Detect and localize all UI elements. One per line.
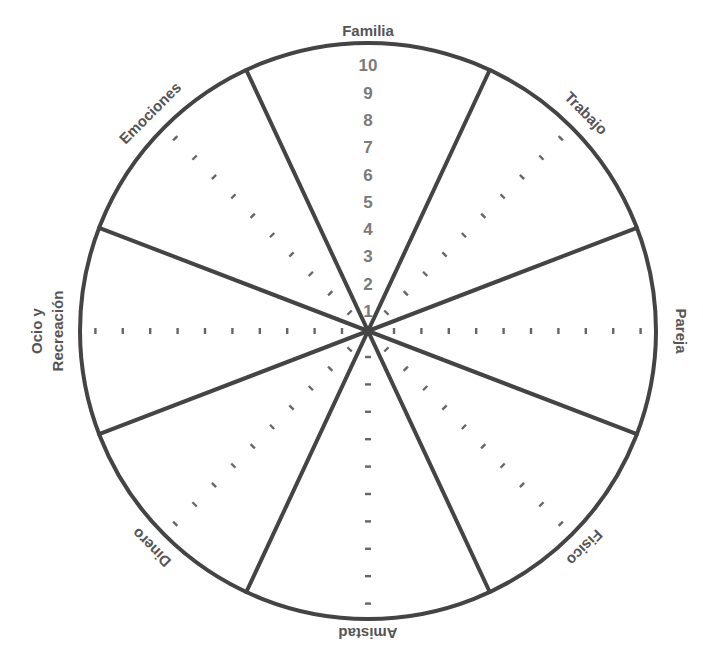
scale-tick: [365, 575, 371, 577]
scale-tick: [639, 328, 641, 334]
scale-tick: [259, 328, 261, 334]
scale-number: 5: [363, 193, 372, 212]
scale-tick: [365, 493, 371, 495]
scale-tick: [557, 328, 559, 334]
scale-tick: [308, 385, 314, 391]
category-labels: FamiliaTrabajoParejaFisicoAmistadDineroO…: [28, 22, 691, 642]
scale-tick: [480, 213, 486, 219]
svg-text:Trabajo: Trabajo: [561, 88, 611, 138]
scale-tick: [211, 482, 217, 488]
scale-tick: [211, 174, 217, 180]
scale-tick: [122, 328, 124, 334]
scale-tick: [286, 328, 288, 334]
scale-tick: [500, 193, 506, 199]
scale-tick: [365, 465, 371, 467]
scale-number: 2: [363, 275, 372, 294]
scale-tick: [500, 463, 506, 469]
scale-tick: [558, 135, 564, 141]
scale-tick: [192, 155, 198, 161]
scale-tick: [192, 501, 198, 507]
category-label-fisico: Fisico: [563, 526, 606, 569]
scale-tick: [94, 328, 96, 334]
scale-tick: [269, 424, 275, 430]
svg-text:Recreación: Recreación: [49, 291, 66, 372]
scale-tick: [502, 328, 504, 334]
scale-tick: [289, 405, 295, 411]
scale-tick: [393, 328, 395, 334]
scale-tick: [422, 271, 428, 277]
scale-tick: [347, 310, 353, 316]
svg-text:Fisico: Fisico: [563, 526, 606, 569]
scale-tick: [341, 328, 343, 334]
scale-tick: [365, 411, 371, 413]
scale-tick: [480, 443, 486, 449]
scale-number: 7: [363, 138, 372, 157]
category-label-amistad: Amistad: [338, 625, 397, 642]
scale-tick: [289, 252, 295, 258]
scale-tick: [250, 443, 256, 449]
scale-tick: [422, 385, 428, 391]
scale-tick: [172, 135, 178, 141]
scale-tick: [308, 271, 314, 277]
scale-numbers: 12345678910: [359, 56, 378, 321]
scale-tick: [442, 252, 448, 258]
scale-tick: [403, 290, 409, 296]
scale-tick: [327, 366, 333, 372]
scale-tick: [269, 232, 275, 238]
scale-tick: [365, 356, 371, 358]
scale-number: 10: [359, 56, 378, 75]
scale-tick: [172, 521, 178, 527]
scale-tick: [176, 328, 178, 334]
scale-tick: [149, 328, 151, 334]
svg-text:Pareja: Pareja: [673, 308, 690, 354]
scale-tick: [442, 405, 448, 411]
scale-tick: [519, 174, 525, 180]
scale-tick: [204, 328, 206, 334]
category-label-ocio-y-recreaci-n: Ocio yRecreación: [28, 291, 66, 372]
scale-tick: [365, 548, 371, 550]
scale-tick: [538, 501, 544, 507]
scale-tick: [383, 310, 389, 316]
scale-tick: [538, 155, 544, 161]
scale-tick: [347, 346, 353, 352]
scale-tick: [612, 328, 614, 334]
scale-tick: [448, 328, 450, 334]
category-label-pareja: Pareja: [673, 308, 690, 354]
scale-tick: [383, 346, 389, 352]
scale-tick: [461, 232, 467, 238]
category-label-familia: Familia: [342, 22, 394, 39]
scale-tick: [327, 290, 333, 296]
scale-number: 4: [363, 220, 373, 239]
scale-tick: [558, 521, 564, 527]
scale-tick: [585, 328, 587, 334]
svg-text:Dinero: Dinero: [128, 525, 174, 571]
scale-tick: [461, 424, 467, 430]
svg-text:Familia: Familia: [342, 22, 394, 39]
scale-number: 1: [363, 302, 372, 321]
scale-tick: [420, 328, 422, 334]
scale-tick: [403, 366, 409, 372]
scale-tick: [250, 213, 256, 219]
scale-number: 8: [363, 111, 372, 130]
scale-tick: [230, 193, 236, 199]
scale-tick: [313, 328, 315, 334]
scale-tick: [519, 482, 525, 488]
scale-tick: [365, 383, 371, 385]
svg-text:Ocio y: Ocio y: [28, 307, 45, 354]
scale-number: 3: [363, 247, 372, 266]
category-label-emociones: Emociones: [116, 79, 185, 148]
category-label-dinero: Dinero: [128, 525, 174, 571]
scale-tick: [365, 602, 371, 604]
scale-number: 9: [363, 84, 372, 103]
svg-text:Amistad: Amistad: [338, 625, 397, 642]
category-label-trabajo: Trabajo: [561, 88, 611, 138]
scale-tick: [230, 463, 236, 469]
scale-tick: [365, 438, 371, 440]
scale-tick: [530, 328, 532, 334]
scale-tick: [365, 520, 371, 522]
wheel-of-life-diagram: 12345678910 FamiliaTrabajoParejaFisicoAm…: [0, 0, 703, 658]
scale-tick: [475, 328, 477, 334]
scale-number: 6: [363, 166, 372, 185]
svg-text:Emociones: Emociones: [116, 79, 185, 148]
scale-tick: [231, 328, 233, 334]
